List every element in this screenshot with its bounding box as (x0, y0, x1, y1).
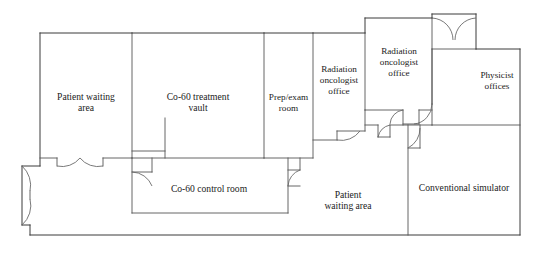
door-arc-entry-lower (22, 199, 31, 225)
floor-plan-diagram: Patient waiting area Co-60 treatment vau… (0, 0, 540, 273)
door-arc-control-room (132, 172, 152, 186)
door-arc-control-right (288, 170, 300, 186)
door-arc-corridor-a (378, 125, 390, 137)
door-arc-physicist (414, 104, 432, 124)
door-arc-waiting-left-b (80, 158, 103, 167)
floor-plan-drawing (0, 0, 540, 273)
door-arc-top-entry-b (455, 18, 476, 40)
building-outline (22, 14, 520, 235)
door-arc-onc2 (390, 110, 403, 124)
door-arc-simulator (408, 128, 420, 148)
door-arc-onc1 (337, 131, 360, 140)
interior-partitions (40, 18, 520, 235)
door-arc-entry-upper (22, 166, 31, 191)
door-arc-top-entry-a (432, 18, 453, 40)
door-arc-waiting-left-a (57, 158, 80, 167)
